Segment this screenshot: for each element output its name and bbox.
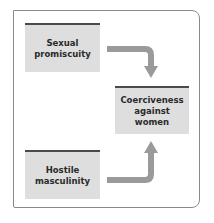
arrow-up-icon [107,141,158,180]
arrows-layer [0,0,214,223]
arrow-down-icon [107,49,158,78]
